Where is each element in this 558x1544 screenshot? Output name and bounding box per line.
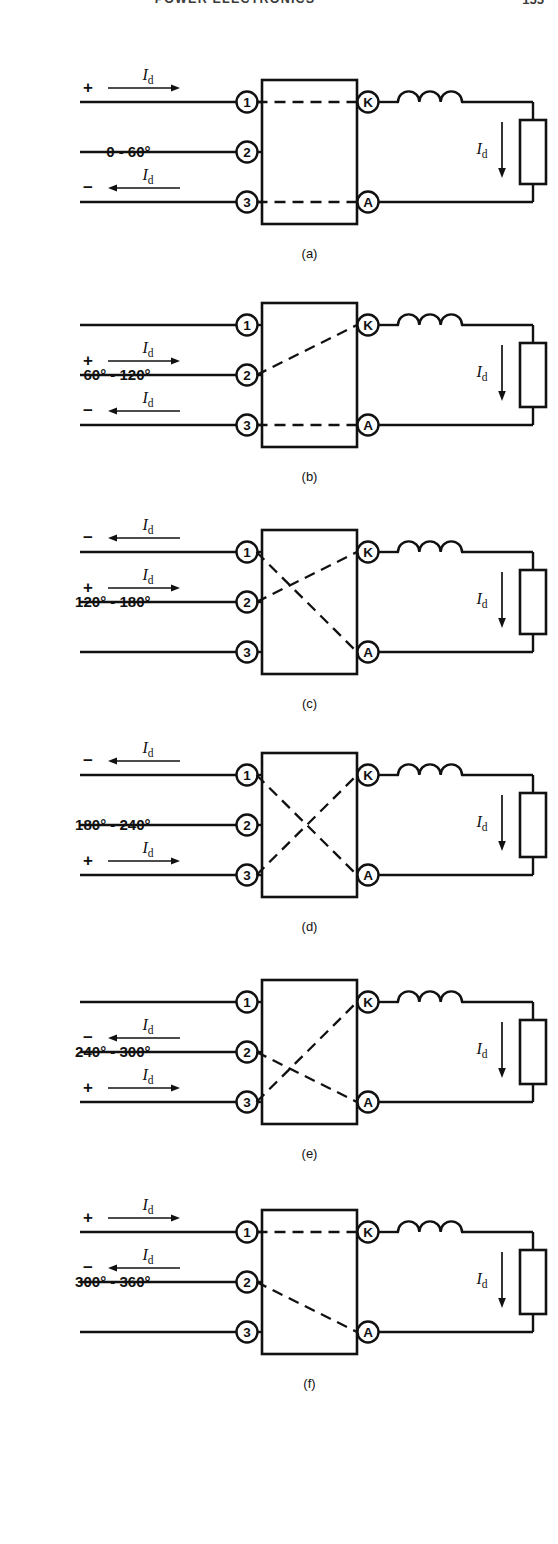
terminal-2: 2 [237,1042,258,1063]
terminal-3: 3 [237,865,258,886]
conduction-path-2-K [257,325,358,375]
svg-text:Id: Id [141,339,153,359]
terminal-3: 3 [237,1092,258,1113]
figure-f: 123KAId300° - 360°+Id−Id(f) [0,1192,558,1414]
load-current-arrow [498,572,506,628]
svg-text:1: 1 [243,318,251,333]
svg-text:A: A [363,1325,373,1340]
source-current-arrow-3 [108,407,180,414]
source-current-label-1: Id [141,739,153,759]
svg-text:Id: Id [141,1016,153,1036]
svg-text:1: 1 [243,95,251,110]
svg-text:A: A [363,1095,373,1110]
terminal-3: 3 [237,192,258,213]
svg-text:2: 2 [243,595,251,610]
load-resistor [520,1020,546,1084]
svg-text:K: K [363,995,373,1010]
source-current-arrow-1 [108,534,180,541]
load-resistor [520,120,546,184]
source-current-arrow-2 [108,1264,180,1271]
figure-d: 123KAId180° - 240°−Id+Id(d) [0,735,558,957]
svg-text:Id: Id [141,839,153,859]
circuit-diagram-e: 123KAId240° - 300°−Id+Id(e) [0,962,558,1184]
source-current-label-3: Id [141,839,153,859]
figure-caption-e: (e) [302,1146,318,1161]
load-resistor [520,793,546,857]
load-resistor [520,343,546,407]
svg-text:2: 2 [243,145,251,160]
inductor-icon [398,541,462,552]
terminal-k: K [358,1222,379,1243]
source-current-arrow-1 [108,1214,180,1221]
svg-text:3: 3 [243,1095,251,1110]
source-current-label-3: Id [141,166,153,186]
source-current-arrow-3 [108,1084,180,1091]
terminal-1: 1 [237,315,258,336]
circuit-diagram-d: 123KAId180° - 240°−Id+Id(d) [0,735,558,957]
figure-caption-b: (b) [302,469,318,484]
source-current-label-2: Id [141,1016,153,1036]
svg-text:A: A [363,195,373,210]
angle-range-label-b: 60° - 120° [83,366,150,383]
terminal-a: A [358,415,379,436]
load-current-label: Id [475,363,487,383]
load-current-label: Id [475,590,487,610]
page-header: POWER ELECTRONICS 155 [0,0,558,11]
terminal-3: 3 [237,642,258,663]
terminal-a: A [358,865,379,886]
book-running-head: POWER ELECTRONICS [0,0,470,6]
angle-range-label-a: 0 - 60° [106,143,150,160]
polarity-sign-2: − [83,1028,93,1047]
svg-text:3: 3 [243,645,251,660]
load-resistor [520,1250,546,1314]
load-current-arrow [498,122,506,178]
svg-text:Id: Id [141,166,153,186]
terminal-k: K [358,992,379,1013]
load-current-label: Id [475,813,487,833]
svg-text:A: A [363,418,373,433]
figure-a: 123KAId0 - 60°+Id−Id(a) [0,62,558,284]
polarity-sign-1: − [83,751,93,770]
svg-text:Id: Id [475,140,487,160]
terminal-3: 3 [237,1322,258,1343]
svg-text:Id: Id [141,66,153,86]
polarity-sign-1: − [83,528,93,547]
terminal-a: A [358,1322,379,1343]
page-number: 155 [522,0,544,7]
polarity-sign-3: + [83,1078,93,1097]
svg-text:A: A [363,868,373,883]
source-current-arrow-2 [108,1034,180,1041]
conduction-path-2-K [257,552,358,602]
svg-text:K: K [363,318,373,333]
terminal-a: A [358,1092,379,1113]
terminal-1: 1 [237,765,258,786]
load-resistor [520,570,546,634]
terminal-1: 1 [237,992,258,1013]
source-current-arrow-3 [108,857,180,864]
svg-text:K: K [363,545,373,560]
conduction-path-2-A [257,1282,358,1332]
svg-text:Id: Id [141,566,153,586]
terminal-1: 1 [237,542,258,563]
converter-block [262,530,357,674]
inductor-icon [398,91,462,102]
terminal-2: 2 [237,592,258,613]
inductor-icon [398,991,462,1002]
terminal-1: 1 [237,92,258,113]
terminal-a: A [358,642,379,663]
conduction-path-1-A [257,552,358,652]
source-current-label-1: Id [141,66,153,86]
source-current-label-2: Id [141,566,153,586]
source-current-label-3: Id [141,389,153,409]
terminal-k: K [358,765,379,786]
polarity-sign-3: − [83,178,93,197]
svg-text:Id: Id [475,813,487,833]
terminal-k: K [358,315,379,336]
polarity-sign-1: + [83,78,93,97]
svg-text:3: 3 [243,1325,251,1340]
angle-range-label-d: 180° - 240° [75,816,150,833]
circuit-diagram-c: 123KAId120° - 180°−Id+Id(c) [0,512,558,734]
figure-b: 123KAId60° - 120°+Id−Id(b) [0,285,558,507]
converter-block [262,980,357,1124]
svg-text:K: K [363,1225,373,1240]
